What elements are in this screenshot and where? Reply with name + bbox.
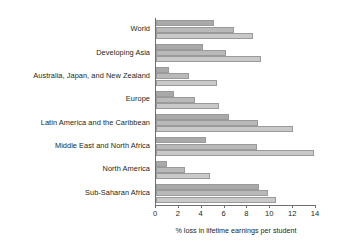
category-label: Latin America and the Caribbean <box>0 119 150 127</box>
x-axis-tick-label: 2 <box>168 209 188 218</box>
bar <box>156 97 195 103</box>
y-axis-category-labels: WorldDeveloping AsiaAustralia, Japan, an… <box>0 18 150 205</box>
bar <box>156 33 253 39</box>
x-axis-tick-label: 14 <box>305 209 325 218</box>
category-label: Europe <box>0 95 150 103</box>
bar-group <box>156 67 316 86</box>
bar <box>156 126 293 132</box>
x-axis-line <box>155 205 315 206</box>
x-axis-tick-label: 10 <box>259 209 279 218</box>
bar <box>156 56 261 62</box>
bar <box>156 184 259 190</box>
bar <box>156 144 257 150</box>
bar <box>156 73 189 79</box>
x-axis-tick <box>178 205 179 208</box>
bar-chart: WorldDeveloping AsiaAustralia, Japan, an… <box>0 0 342 246</box>
bar <box>156 91 174 97</box>
bar-group <box>156 44 316 63</box>
category-label: Developing Asia <box>0 49 150 57</box>
bar-group <box>156 20 316 39</box>
category-label: Australia, Japan, and New Zealand <box>0 72 150 80</box>
bar <box>156 150 314 156</box>
bar <box>156 167 185 173</box>
x-axis-tick-label: 0 <box>145 209 165 218</box>
bar <box>156 173 210 179</box>
bar <box>156 120 258 126</box>
bar <box>156 20 214 26</box>
x-axis-tick-label: 12 <box>282 209 302 218</box>
category-label: Middle East and North Africa <box>0 142 150 150</box>
bar <box>156 44 203 50</box>
bar <box>156 50 226 56</box>
x-axis-tick-label: 4 <box>191 209 211 218</box>
bar-group <box>156 161 316 180</box>
plot-area <box>155 18 317 205</box>
x-axis-tick <box>155 205 156 208</box>
bar <box>156 103 219 109</box>
bar <box>156 161 167 167</box>
x-axis-tick-label: 8 <box>236 209 256 218</box>
bar <box>156 137 206 143</box>
bar-group <box>156 184 316 203</box>
x-axis-tick <box>292 205 293 208</box>
x-axis-tick <box>315 205 316 208</box>
bar <box>156 80 217 86</box>
bar-group <box>156 114 316 133</box>
category-label: North America <box>0 165 150 173</box>
bar <box>156 190 268 196</box>
bar <box>156 114 229 120</box>
category-label: Sub-Saharan Africa <box>0 189 150 197</box>
bar <box>156 67 169 73</box>
x-axis-tick <box>246 205 247 208</box>
bar-group <box>156 91 316 110</box>
x-axis-tick <box>269 205 270 208</box>
x-axis-tick <box>201 205 202 208</box>
x-axis-tick-label: 6 <box>214 209 234 218</box>
x-axis-title: % loss in lifetime earnings per student <box>155 226 317 235</box>
category-label: World <box>0 25 150 33</box>
bar-group <box>156 137 316 156</box>
x-axis-tick <box>224 205 225 208</box>
bar <box>156 197 276 203</box>
bar <box>156 27 234 33</box>
